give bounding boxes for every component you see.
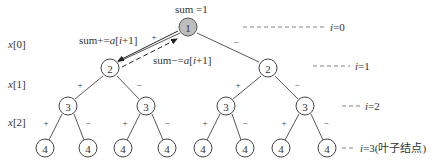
tree-node-n3c: 3 xyxy=(217,97,235,115)
node-label: 4 xyxy=(42,143,48,155)
sign-minus: − xyxy=(294,80,299,90)
tree-node-n2a: 2 xyxy=(101,59,119,77)
level-guides xyxy=(243,27,361,148)
sign-plus: + xyxy=(122,118,127,128)
node-label: 4 xyxy=(200,143,206,155)
sign-minus: − xyxy=(233,37,238,47)
tree-node-n4f: 4 xyxy=(236,139,254,157)
edge-3a-4a xyxy=(49,114,62,140)
sign-minus: − xyxy=(85,118,90,128)
node-label: 4 xyxy=(278,143,284,155)
tree-node-n1: 1 xyxy=(179,18,197,36)
edge-3a-4b xyxy=(74,114,84,140)
sign-minus: − xyxy=(242,118,247,128)
tree-node-n4a: 4 xyxy=(36,139,54,157)
node-label: 4 xyxy=(85,143,91,155)
sign-minus: − xyxy=(323,118,328,128)
sign-plus: + xyxy=(151,32,156,42)
node-label: 3 xyxy=(65,101,71,113)
sign-plus: + xyxy=(43,118,48,128)
level-label-i1: i=1 xyxy=(355,60,370,72)
tree-node-n3b: 3 xyxy=(137,97,155,115)
tree-node-n3d: 3 xyxy=(296,97,314,115)
tree-node-n4h: 4 xyxy=(318,139,336,157)
node-label: 3 xyxy=(302,101,308,113)
edge-3d-4g xyxy=(285,114,299,140)
row-label-x1: x[1] xyxy=(7,78,26,90)
edge-signs: + − + − + − + − + − + − + − xyxy=(43,32,328,128)
node-label: 1 xyxy=(185,22,191,34)
level-label-i0: i=0 xyxy=(330,21,345,33)
edge-3b-4d xyxy=(152,114,163,140)
sign-plus: + xyxy=(235,80,240,90)
tree-node-n2b: 2 xyxy=(259,59,277,77)
tree-node-n4e: 4 xyxy=(194,139,212,157)
sign-minus: − xyxy=(164,118,169,128)
tree-node-n4d: 4 xyxy=(158,139,176,157)
node-label: 4 xyxy=(242,143,248,155)
sign-plus: + xyxy=(77,80,82,90)
node-label: 2 xyxy=(107,63,113,75)
row-label-x0: x[0] xyxy=(7,38,26,50)
edge-3c-4e xyxy=(207,114,220,140)
tree-node-n4g: 4 xyxy=(272,139,290,157)
backtrack-sum-annotation: sum−=a[i+1] xyxy=(153,54,211,66)
tree-node-n4c: 4 xyxy=(114,139,132,157)
forward-sum-annotation: sum+=a[i+1] xyxy=(79,34,137,46)
node-label: 4 xyxy=(324,143,330,155)
edge-3c-4f xyxy=(232,114,241,140)
sign-plus: + xyxy=(281,118,286,128)
edge-3b-4c xyxy=(127,114,140,140)
level-label-i2: i=2 xyxy=(365,100,380,112)
node-label: 4 xyxy=(164,143,170,155)
node-label: 4 xyxy=(120,143,126,155)
row-label-x2: x[2] xyxy=(7,116,26,128)
tree-node-n3a: 3 xyxy=(59,97,77,115)
sign-minus: − xyxy=(136,80,141,90)
root-sum-annotation: sum =1 xyxy=(175,3,208,15)
level-label-i3: i=3(叶子结点) xyxy=(360,142,426,155)
node-label: 2 xyxy=(265,63,271,75)
tree-node-n4b: 4 xyxy=(79,139,97,157)
solution-space-tree: + − + − + − + − + − + − + − i=0 i=1 i=2 … xyxy=(0,0,438,163)
node-label: 3 xyxy=(143,101,149,113)
node-label: 3 xyxy=(223,101,229,113)
sign-plus: + xyxy=(202,118,207,128)
edge-3d-4h xyxy=(311,114,323,140)
